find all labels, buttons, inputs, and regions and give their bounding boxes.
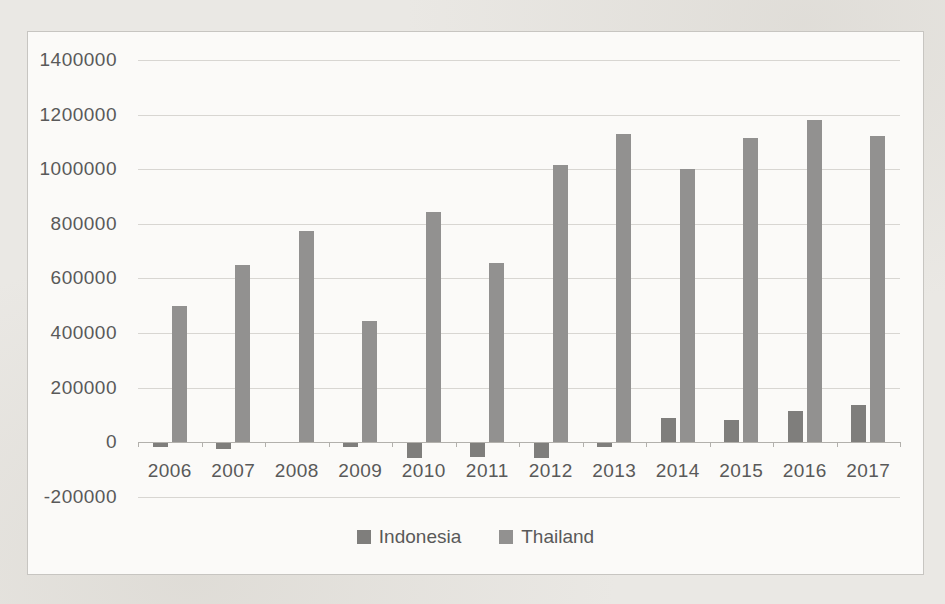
thailand-bar-2008 bbox=[299, 231, 314, 443]
gridline bbox=[138, 60, 900, 61]
x-axis-tick-label: 2015 bbox=[709, 461, 773, 481]
x-axis-tick-label: 2017 bbox=[836, 461, 900, 481]
x-axis-tick-label: 2011 bbox=[455, 461, 519, 481]
gridline bbox=[138, 388, 900, 389]
indonesia-bar-2006 bbox=[153, 443, 168, 447]
gridline bbox=[138, 169, 900, 170]
gridline bbox=[138, 115, 900, 116]
indonesia-bar-2007 bbox=[216, 443, 231, 449]
thailand-bar-2011 bbox=[489, 263, 504, 442]
x-axis-tick-label: 2008 bbox=[265, 461, 329, 481]
x-axis-tick bbox=[265, 442, 266, 447]
x-axis-tick bbox=[837, 442, 838, 447]
legend-label-indonesia: Indonesia bbox=[379, 526, 461, 548]
x-axis-tick-label: 2006 bbox=[138, 461, 202, 481]
indonesia-bar-2011 bbox=[470, 443, 485, 457]
x-axis-tick bbox=[583, 442, 584, 447]
y-axis-tick-label: 1000000 bbox=[28, 159, 117, 179]
x-axis-tick bbox=[646, 442, 647, 447]
x-axis-tick-label: 2012 bbox=[519, 461, 583, 481]
scanned-page: Indonesia Thailand 140000012000001000000… bbox=[0, 0, 945, 604]
indonesia-bar-2014 bbox=[661, 418, 676, 443]
indonesia-swatch-icon bbox=[357, 530, 371, 544]
y-axis-tick-label: 800000 bbox=[28, 214, 117, 234]
thailand-bar-2012 bbox=[553, 165, 568, 442]
x-axis-tick bbox=[329, 442, 330, 447]
gridline bbox=[138, 224, 900, 225]
thailand-bar-2006 bbox=[172, 306, 187, 443]
indonesia-bar-2017 bbox=[851, 405, 866, 442]
thailand-bar-2010 bbox=[426, 212, 441, 443]
bar-chart: Indonesia Thailand 140000012000001000000… bbox=[27, 31, 924, 575]
x-axis-tick bbox=[202, 442, 203, 447]
x-axis-tick-label: 2016 bbox=[773, 461, 837, 481]
gridline bbox=[138, 333, 900, 334]
thailand-bar-2017 bbox=[870, 136, 885, 442]
x-axis-tick bbox=[900, 442, 901, 447]
thailand-bar-2016 bbox=[807, 120, 822, 442]
y-axis-tick-label: 200000 bbox=[28, 378, 117, 398]
chart-legend: Indonesia Thailand bbox=[28, 526, 923, 548]
x-axis-tick-label: 2010 bbox=[392, 461, 456, 481]
x-axis-tick bbox=[456, 442, 457, 447]
y-axis-tick-label: 0 bbox=[28, 432, 117, 452]
thailand-bar-2013 bbox=[616, 134, 631, 443]
legend-item-indonesia: Indonesia bbox=[357, 526, 461, 548]
x-axis-tick bbox=[519, 442, 520, 447]
x-axis-tick-label: 2013 bbox=[582, 461, 646, 481]
gridline bbox=[138, 497, 900, 498]
y-axis-tick-label: 1200000 bbox=[28, 105, 117, 125]
thailand-bar-2009 bbox=[362, 321, 377, 443]
x-axis-tick bbox=[710, 442, 711, 447]
indonesia-bar-2015 bbox=[724, 420, 739, 442]
x-axis-tick bbox=[773, 442, 774, 447]
y-axis-tick-label: -200000 bbox=[28, 487, 117, 507]
indonesia-bar-2016 bbox=[788, 411, 803, 442]
x-axis-tick-label: 2009 bbox=[328, 461, 392, 481]
thailand-bar-2014 bbox=[680, 169, 695, 442]
indonesia-bar-2010 bbox=[407, 443, 422, 458]
gridline bbox=[138, 278, 900, 279]
indonesia-bar-2012 bbox=[534, 443, 549, 458]
x-axis-tick bbox=[392, 442, 393, 447]
y-axis-tick-label: 400000 bbox=[28, 323, 117, 343]
legend-label-thailand: Thailand bbox=[521, 526, 594, 548]
thailand-swatch-icon bbox=[499, 530, 513, 544]
indonesia-bar-2013 bbox=[597, 443, 612, 447]
thailand-bar-2007 bbox=[235, 265, 250, 443]
y-axis-tick-label: 600000 bbox=[28, 268, 117, 288]
x-axis-tick-label: 2007 bbox=[201, 461, 265, 481]
y-axis-tick-label: 1400000 bbox=[28, 50, 117, 70]
legend-item-thailand: Thailand bbox=[499, 526, 594, 548]
x-axis-tick-label: 2014 bbox=[646, 461, 710, 481]
x-axis-tick bbox=[138, 442, 139, 447]
indonesia-bar-2009 bbox=[343, 443, 358, 447]
thailand-bar-2015 bbox=[743, 138, 758, 442]
